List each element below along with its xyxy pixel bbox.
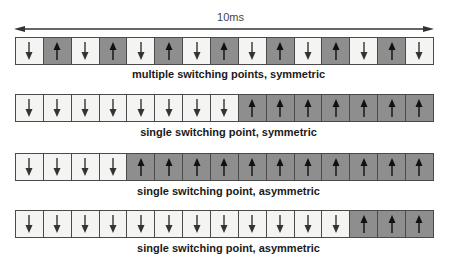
frame-cell-up <box>406 211 433 237</box>
frame-cell-up <box>100 38 128 64</box>
frame-cell-up <box>267 38 295 64</box>
frame-cell-down <box>44 95 72 121</box>
arrow-down-icon <box>81 42 89 60</box>
arrow-up-icon <box>165 158 173 176</box>
frame-cell-down <box>239 211 267 237</box>
arrow-up-icon <box>220 42 228 60</box>
frame-cell-up <box>378 154 406 180</box>
frame-cell-up <box>211 38 239 64</box>
arrow-up-icon <box>388 99 396 117</box>
frame-cell-up <box>378 211 406 237</box>
frame-cell-up <box>378 95 406 121</box>
frame-cell-up <box>322 38 350 64</box>
arrow-down-icon <box>25 215 33 233</box>
arrow-down-icon <box>53 158 61 176</box>
arrow-down-icon <box>25 42 33 60</box>
frame-cell-up <box>350 95 378 121</box>
frame-cell-down <box>350 38 378 64</box>
frame-caption-2: single switching point, symmetric <box>0 126 449 138</box>
arrow-up-icon <box>360 158 368 176</box>
frame-row-2 <box>15 94 434 122</box>
arrow-down-icon <box>276 215 284 233</box>
frame-cell-down <box>295 38 323 64</box>
arrow-down-icon <box>248 215 256 233</box>
arrow-up-icon <box>276 42 284 60</box>
arrow-down-icon <box>193 42 201 60</box>
arrow-down-icon <box>193 215 201 233</box>
frame-caption-4: single switching point, asymmetric <box>0 242 449 254</box>
frame-cell-down <box>72 95 100 121</box>
frame-cell-down <box>211 95 239 121</box>
frame-cell-up <box>239 95 267 121</box>
frame-cell-up <box>350 154 378 180</box>
arrow-up-icon <box>388 42 396 60</box>
arrow-up-icon <box>415 215 423 233</box>
arrow-up-icon <box>304 99 312 117</box>
frame-cell-up <box>295 95 323 121</box>
arrow-up-icon <box>109 42 117 60</box>
timeline-double-arrow <box>14 24 434 34</box>
frame-cell-down <box>406 38 433 64</box>
arrow-down-icon <box>81 215 89 233</box>
frame-cell-up <box>183 154 211 180</box>
frame-cell-up <box>211 154 239 180</box>
arrow-up-icon <box>276 158 284 176</box>
frame-row-1 <box>15 37 434 65</box>
arrow-down-icon <box>81 158 89 176</box>
arrow-up-icon <box>415 99 423 117</box>
frame-cell-down <box>100 95 128 121</box>
frame-cell-down <box>72 154 100 180</box>
frame-cell-up <box>406 95 433 121</box>
arrow-up-icon <box>137 158 145 176</box>
arrow-down-icon <box>165 215 173 233</box>
arrow-down-icon <box>360 42 368 60</box>
frame-cell-up <box>406 154 433 180</box>
frame-cell-up <box>155 154 183 180</box>
timeline-duration-label: 10ms <box>0 11 449 23</box>
arrow-down-icon <box>25 158 33 176</box>
arrow-up-icon <box>415 158 423 176</box>
frame-cell-down <box>155 211 183 237</box>
arrow-up-icon <box>332 99 340 117</box>
arrow-down-icon <box>220 215 228 233</box>
frame-caption-3: single switching point, asymmetric <box>0 185 449 197</box>
frame-cell-up <box>322 154 350 180</box>
frame-row-3 <box>15 153 434 181</box>
arrow-up-icon <box>276 99 284 117</box>
frame-cell-down <box>211 211 239 237</box>
arrow-down-icon <box>53 215 61 233</box>
arrow-up-icon <box>388 158 396 176</box>
frame-cell-down <box>16 95 44 121</box>
arrow-down-icon <box>109 158 117 176</box>
frame-cell-down <box>16 38 44 64</box>
frame-cell-down <box>183 38 211 64</box>
arrow-down-icon <box>25 99 33 117</box>
frame-cell-down <box>239 38 267 64</box>
arrow-down-icon <box>109 99 117 117</box>
frame-cell-up <box>127 154 155 180</box>
arrow-up-icon <box>248 99 256 117</box>
arrow-up-icon <box>165 42 173 60</box>
frame-cell-down <box>155 95 183 121</box>
arrow-up-icon <box>360 215 368 233</box>
frame-cell-down <box>322 211 350 237</box>
frame-cell-up <box>378 38 406 64</box>
frame-cell-down <box>127 211 155 237</box>
arrow-down-icon <box>53 99 61 117</box>
arrow-up-icon <box>360 99 368 117</box>
frame-cell-up <box>267 95 295 121</box>
frame-cell-down <box>183 95 211 121</box>
frame-cell-up <box>322 95 350 121</box>
frame-cell-down <box>44 154 72 180</box>
arrow-down-icon <box>415 42 423 60</box>
frame-cell-up <box>44 38 72 64</box>
arrow-up-icon <box>220 158 228 176</box>
frame-cell-down <box>100 154 128 180</box>
arrow-down-icon <box>304 215 312 233</box>
frame-cell-up <box>267 154 295 180</box>
frame-cell-down <box>16 211 44 237</box>
arrow-down-icon <box>137 99 145 117</box>
arrow-down-icon <box>304 42 312 60</box>
arrow-down-icon <box>81 99 89 117</box>
frame-cell-up <box>295 154 323 180</box>
